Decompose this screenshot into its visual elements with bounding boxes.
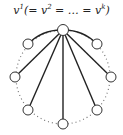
vertex-node-upper-right xyxy=(92,39,102,49)
vertex-node-upper-left xyxy=(23,39,33,49)
straight-edge xyxy=(15,30,63,77)
vertex-node-mid-right xyxy=(106,72,116,82)
vertex-node-lower-left xyxy=(23,105,33,115)
vertex-node-lower-right xyxy=(92,105,102,115)
vertex-node-v1 xyxy=(58,25,69,36)
straight-edge xyxy=(28,30,63,110)
graph-diagram xyxy=(0,0,123,135)
vertex-node-mid-left xyxy=(10,72,20,82)
straight-edge xyxy=(63,30,111,77)
vertex-node-bottom xyxy=(58,119,68,129)
